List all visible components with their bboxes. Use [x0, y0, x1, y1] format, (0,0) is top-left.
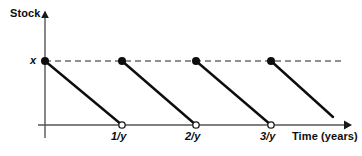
zero-stock-marker-2	[193, 122, 199, 128]
x-axis-tick-label-2: 2/y	[185, 131, 200, 142]
stock-level-label: x	[30, 55, 36, 66]
replenishment-marker-4	[267, 57, 275, 65]
depletion-line-4	[271, 61, 333, 117]
depletion-line-1	[45, 61, 122, 125]
sawtooth-stock-diagram: Stock Time (years) x 1/y 2/y 3/y	[0, 0, 362, 156]
replenishment-marker-1	[41, 57, 49, 65]
x-axis-title: Time (years)	[292, 131, 358, 142]
x-axis-arrowhead	[344, 121, 352, 130]
depletion-line-2	[122, 61, 196, 125]
replenishment-marker-3	[192, 57, 200, 65]
y-axis-title: Stock	[10, 8, 40, 19]
x-axis-tick-label-3: 3/y	[260, 131, 275, 142]
depletion-line-3	[196, 61, 271, 125]
y-axis-arrowhead	[41, 11, 49, 19]
zero-stock-marker-3	[268, 122, 274, 128]
replenishment-marker-2	[118, 57, 126, 65]
x-axis-tick-label-1: 1/y	[111, 131, 126, 142]
zero-stock-marker-1	[119, 122, 125, 128]
